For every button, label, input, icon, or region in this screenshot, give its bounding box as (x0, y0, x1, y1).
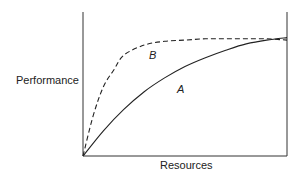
curve-b-label: B (149, 49, 156, 61)
y-axis-label: Performance (16, 74, 79, 86)
x-axis-label: Resources (160, 159, 213, 171)
curve-b-dashed (83, 39, 287, 156)
chart-canvas (0, 0, 304, 178)
curve-a-label: A (177, 83, 184, 95)
curve-a-solid (83, 38, 287, 156)
